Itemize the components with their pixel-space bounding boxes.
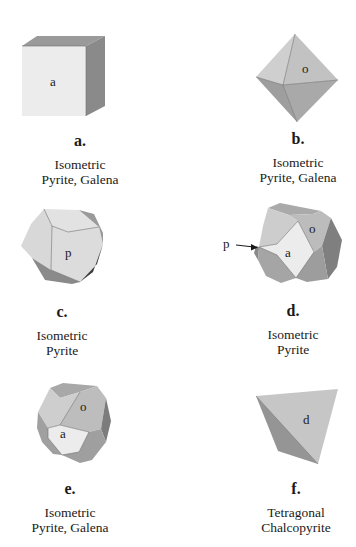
caption-c: c. Isometric Pyrite [0,303,132,358]
crystal-system-a: Isometric [10,157,150,172]
minerals-c: Pyrite [0,343,132,358]
face-label-d: d [303,412,310,427]
caption-a: a. Isometric Pyrite, Galena [10,132,150,187]
minerals-b: Pyrite, Galena [228,170,356,185]
minerals-e: Pyrite, Galena [0,520,140,535]
face-label-o: o [302,61,309,76]
caption-b: b. Isometric Pyrite, Galena [228,130,356,185]
minerals-d: Pyrite [223,342,356,357]
minerals-f: Chalcopyrite [226,520,356,535]
combination-crystal: a o p [223,203,342,283]
crystal-forms-figure: a o p [0,0,356,547]
cube-crystal: a [22,36,105,116]
panel-letter-d: d. [223,302,356,320]
disphenoid-crystal: d [256,389,338,464]
caption-e: e. Isometric Pyrite, Galena [0,480,140,535]
crystal-drawings: a o p [0,0,356,547]
pointer-label-p: p [223,236,230,251]
panel-letter-f: f. [226,480,356,498]
panel-letter-b: b. [228,130,356,148]
panel-letter-e: e. [0,480,140,498]
panel-letter-c: c. [0,303,132,321]
face-label-p: p [65,245,72,260]
caption-d: d. Isometric Pyrite [223,302,356,357]
crystal-system-d: Isometric [223,327,356,342]
octahedron-crystal: o [256,34,338,122]
minerals-a: Pyrite, Galena [10,172,150,187]
pyritohedron-crystal: p [21,209,103,284]
face-label-a: a [50,74,56,89]
crystal-system-e: Isometric [0,505,140,520]
face-label-o: o [309,221,316,236]
face-label-a: a [285,245,291,260]
crystal-system-b: Isometric [228,155,356,170]
crystal-system-f: Tetragonal [226,505,356,520]
caption-f: f. Tetragonal Chalcopyrite [226,480,356,535]
panel-letter-a: a. [10,132,150,150]
face-label-a: a [60,426,66,441]
crystal-system-c: Isometric [0,328,132,343]
face-label-o: o [80,399,87,414]
cuboctahedron-crystal: a o [37,383,111,463]
